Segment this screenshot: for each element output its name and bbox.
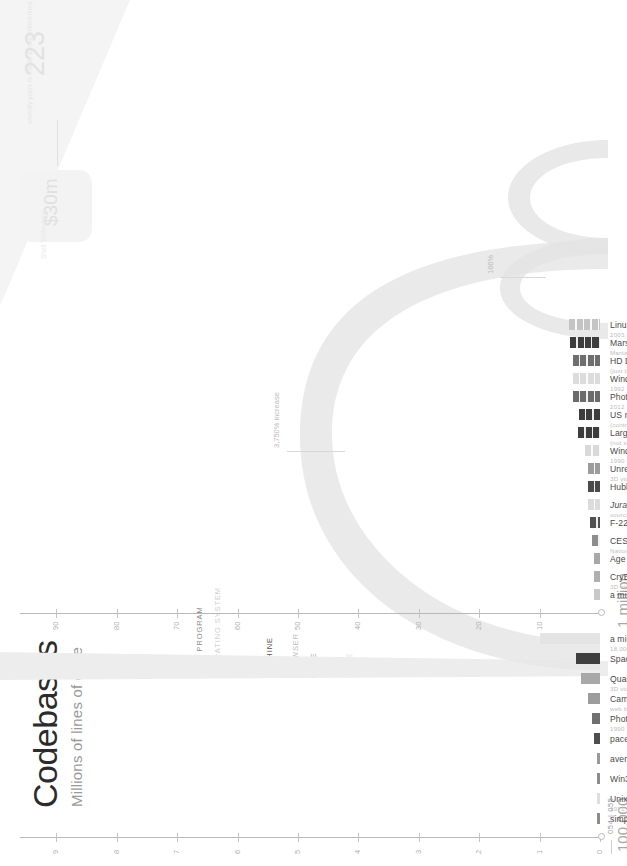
axis-tick (56, 609, 57, 618)
bar-label-name: CESM climate model (610, 537, 627, 547)
bar-label-sub: (not software, pre-bug fixing) (610, 440, 627, 447)
bar-us-military-drone[interactable] (579, 409, 600, 420)
bar-label: Age of Empires online (610, 555, 627, 565)
bar-mars-curiosity-rover[interactable] (570, 337, 600, 348)
bar-photoshop-cs6[interactable] (573, 391, 600, 402)
bar-label-name: Jurassic Park codebase (610, 501, 627, 511)
annotation-increase-1: 3,750% increase (272, 392, 281, 448)
bar-label: Large Hadron Collider(not software, pre-… (610, 429, 627, 447)
bar-label: Jurassic Park codebasesource: Dennis Ned… (610, 501, 627, 519)
chart-row-2: 1020304050607080901 milliona million lin… (0, 0, 627, 866)
inset-connector (57, 120, 58, 166)
bar-label: Unreal Engine 33D video-game system (610, 465, 627, 483)
bar-label: F-22 Raptor fighter jet (610, 519, 627, 529)
bar-label-name: Windows 3.1 (610, 447, 627, 457)
axis-tick-label: 10 (535, 622, 544, 630)
axis-tick (479, 609, 480, 618)
bar-label: Photoshop CS62012 (610, 393, 627, 411)
inset-number: 223 (20, 31, 51, 76)
bar-cryengine-2[interactable] (594, 571, 600, 582)
axis-tick-label: 70 (172, 622, 181, 630)
bar-label-name: HD DVD player on Xbox (610, 357, 627, 367)
axis-tick (358, 609, 359, 618)
bar-unreal-engine-3[interactable] (588, 463, 600, 474)
bar-label: HD DVD player on Xbox(just the player) (610, 357, 627, 375)
bar-label-name: US military drone (610, 411, 627, 421)
axis-tick (540, 609, 541, 618)
bar-label: Windows NT 3.11992 (610, 375, 627, 393)
annotation-leader-1 (287, 451, 345, 452)
bar-f-22-raptor-fighter-jet[interactable] (590, 517, 600, 528)
bar-label: CESM climate modelNational Center for At… (610, 537, 627, 555)
bar-label: Mars Curiosity RoverMartian ground vehic… (610, 339, 627, 357)
folio-rule (611, 840, 612, 854)
bar-label: Windows 3.11990 (610, 447, 627, 465)
bar-label-name: Hubble Space Telescope (610, 483, 627, 493)
bar-label-name: CryEngine 2 (610, 573, 627, 583)
bar-large-hadron-collider[interactable] (578, 427, 600, 438)
bar-label-sub: (just the player) (610, 368, 627, 375)
bar-label-sub: National Center for Atmospheric Research (610, 548, 627, 555)
bar-label-sub: 2012 (610, 404, 627, 411)
bar-jurassic-park-codebase[interactable] (588, 499, 600, 510)
bar-label-name: Large Hadron Collider (610, 429, 627, 439)
bar-label-name: Unreal Engine 3 (610, 465, 627, 475)
axis-tick (177, 609, 178, 618)
axis-tick (117, 609, 118, 618)
bar-label: Hubble Space Telescope (610, 483, 627, 493)
bar-label-name: Windows NT 3.1 (610, 375, 627, 385)
axis-tick-label: 30 (414, 622, 423, 630)
bar-cesm-climate-model[interactable] (592, 535, 600, 546)
bar-label-sub: 2003 (610, 332, 627, 339)
bar-label-sub: 3D video-game system (610, 476, 627, 483)
bar-label: Linux kernel 2.6.02003 (610, 321, 627, 339)
bar-label-sub: (controls software only) (610, 422, 627, 429)
axis-tick-label: 90 (51, 622, 60, 630)
bar-label-name: Age of Empires online (610, 555, 627, 565)
bar-label-name: Linux kernel 2.6.0 (610, 321, 627, 331)
bar-label: CryEngine 23D video-game system (610, 573, 627, 591)
bar-label-name: a million lines of code (610, 591, 627, 601)
bar-linux-kernel-2-6-0[interactable] (569, 319, 600, 330)
bar-hd-dvd-player-on-xbox[interactable] (573, 355, 600, 366)
bar-label-sub: Martian ground vehicle (610, 350, 627, 357)
bar-label-name: F-22 Raptor fighter jet (610, 519, 627, 529)
axis-tick-label: 40 (353, 622, 362, 630)
axis-tick (419, 609, 420, 618)
bar-a-million-lines-of-code[interactable] (594, 589, 600, 600)
value-axis-2 (20, 613, 600, 614)
bar-label-name: Photoshop CS6 (610, 393, 627, 403)
bar-label-sub: 3D video-game system (610, 584, 627, 591)
axis-tick-label: 50 (293, 622, 302, 630)
axis-tick-label: 80 (112, 622, 121, 630)
bar-windows-3-1[interactable] (585, 445, 600, 456)
axis-zero-marker (598, 610, 605, 617)
bar-label-sub: 1990 (610, 458, 627, 465)
bar-hubble-space-telescope[interactable] (588, 481, 600, 492)
folio: 054 | 055 (606, 797, 615, 834)
bar-label: a million lines of code (610, 591, 627, 601)
bar-windows-nt-3-1[interactable] (573, 373, 600, 384)
inset-number-caption: seventy years to create at one million l… (26, 0, 35, 124)
annotation-leader-2 (500, 277, 546, 278)
axis-tick-label: 20 (474, 622, 483, 630)
axis-tick (298, 609, 299, 618)
bar-label-sub: source: Dennis Nedry (610, 512, 627, 519)
inset-caption-text: seventy years to create at one million l… (26, 0, 33, 124)
poster-canvas: Codebases Millions of lines of code APP … (0, 0, 627, 866)
bar-label: US military drone(controls software only… (610, 411, 627, 429)
bar-label-name: Mars Curiosity Rover (610, 339, 627, 349)
axis-tick (238, 609, 239, 618)
bar-age-of-empires-online[interactable] (594, 553, 600, 564)
axis-tick-label: 60 (233, 622, 242, 630)
annotation-increase-2: 166% (486, 255, 495, 274)
bar-label-sub: 1992 (610, 386, 627, 393)
inset-cost-caption: Shell Technology (40, 210, 47, 259)
